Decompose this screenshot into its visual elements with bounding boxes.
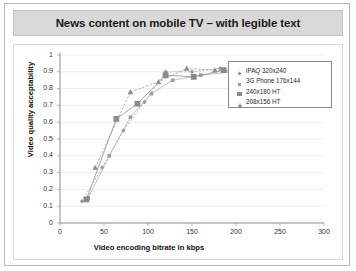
legend-item[interactable]: 3G Phone 176x144 bbox=[233, 76, 331, 86]
y-axis-tick-label: 0.6 bbox=[29, 118, 53, 125]
page-title: News content on mobile TV – with legible… bbox=[14, 11, 342, 35]
slide-title-banner: News content on mobile TV – with legible… bbox=[13, 10, 343, 36]
x-axis-tick-label: 100 bbox=[135, 228, 161, 235]
legend-item-label: 240x180 HT bbox=[246, 88, 280, 95]
legend-item-label: 3G Phone 176x144 bbox=[246, 77, 300, 84]
y-axis-tick-label: 0 bbox=[29, 219, 53, 226]
y-axis-tick-label: 0.1 bbox=[29, 202, 53, 209]
x-axis-tick-label: 150 bbox=[179, 228, 205, 235]
x-axis-tick-label: 50 bbox=[91, 228, 117, 235]
triangle-marker bbox=[233, 93, 246, 111]
y-axis-tick-label: 0.2 bbox=[29, 185, 53, 192]
y-axis-tick-label: 0.8 bbox=[29, 84, 53, 91]
x-axis-tick-label: 300 bbox=[311, 228, 337, 235]
y-axis-tick-label: 1 bbox=[29, 51, 53, 58]
x-axis-title: Video encoding bitrate in kbps bbox=[44, 243, 254, 252]
chart-legend: iPAQ 320x2403G Phone 176x144240x180 HT20… bbox=[228, 61, 332, 108]
legend-item[interactable]: iPAQ 320x240 bbox=[233, 65, 331, 75]
y-axis-tick-label: 0.4 bbox=[29, 151, 53, 158]
x-axis-tick-label: 200 bbox=[223, 228, 249, 235]
legend-item[interactable]: 208x156 HT bbox=[233, 97, 331, 107]
x-axis-tick-label: 250 bbox=[267, 228, 293, 235]
y-axis-title: Video quality acceptability bbox=[26, 40, 35, 180]
legend-item[interactable]: 240x180 HT bbox=[233, 86, 331, 96]
y-axis-tick-label: 0.9 bbox=[29, 67, 53, 74]
chart-container: Video quality acceptability Video encodi… bbox=[13, 44, 343, 260]
x-axis-tick-label: 0 bbox=[47, 228, 73, 235]
y-axis-tick-label: 0.7 bbox=[29, 101, 53, 108]
y-axis-tick-label: 0.3 bbox=[29, 168, 53, 175]
legend-item-label: 208x156 HT bbox=[246, 98, 280, 105]
legend-item-label: iPAQ 320x240 bbox=[246, 67, 286, 74]
y-axis-tick-label: 0.5 bbox=[29, 135, 53, 142]
slide-canvas: News content on mobile TV – with legible… bbox=[4, 3, 350, 266]
chart-plot: Video quality acceptability Video encodi… bbox=[14, 45, 342, 259]
